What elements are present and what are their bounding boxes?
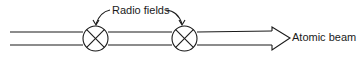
beam-arrow-head — [272, 27, 290, 50]
radio-fields-label: Radio fields — [112, 4, 169, 16]
atomic-beam-diagram — [0, 0, 362, 59]
radio-field-1-icon — [83, 26, 108, 51]
radio-field-2-icon — [172, 26, 197, 51]
beam-upper-line-3 — [197, 31, 272, 32]
atomic-beam-label: Atomic beam — [292, 31, 356, 43]
